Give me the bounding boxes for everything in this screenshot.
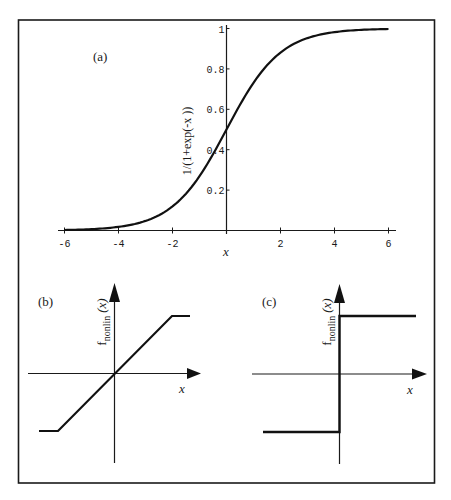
y-axis-label: 1/(1+exp(-x )) (180, 107, 194, 175)
y-tick-label: 0.2 (206, 186, 224, 197)
panel-c-label: (c) (262, 294, 276, 309)
panel-c-step-plot: (c) x fnonlin(x) (252, 284, 427, 464)
x-tick-label: 4 (331, 239, 337, 250)
figure: (a) -6-4-2246 0.20.40.60.81 x 1/(1+exp(-… (0, 0, 451, 500)
x-tick-label: -6 (58, 239, 70, 250)
panel-c-y-arrow-icon (334, 284, 345, 303)
panel-b-x-label: x (178, 381, 185, 396)
x-tick-label: 6 (385, 239, 391, 250)
y-tick-label: 0.8 (206, 65, 224, 76)
panel-a-label: (a) (93, 49, 107, 64)
panel-c-y-label: fnonlin(x) (319, 298, 337, 345)
x-tick-label: -2 (166, 239, 178, 250)
panel-b-ramp-plot: (b) x fnonlin(x) (28, 283, 201, 463)
panel-b-x-arrow-icon (187, 368, 201, 379)
panel-c-x-arrow-icon (412, 369, 427, 380)
panel-b-y-label: fnonlin(x) (94, 298, 112, 345)
panel-b-y-arrow-icon (109, 283, 120, 302)
panel-c-x-label: x (406, 382, 413, 397)
panel-a-sigmoid-plot: (a) -6-4-2246 0.20.40.60.81 x 1/(1+exp(-… (58, 25, 396, 260)
y-tick-label: 1 (218, 25, 224, 36)
x-axis-label: x (222, 244, 229, 259)
x-tick-label: 2 (277, 239, 283, 250)
y-tick-label: 0.6 (206, 105, 224, 116)
svg-text:fnonlin(x): fnonlin(x) (94, 298, 112, 345)
x-tick-label: -4 (112, 239, 124, 250)
svg-text:fnonlin(x): fnonlin(x) (319, 298, 337, 345)
panel-b-label: (b) (38, 294, 53, 309)
